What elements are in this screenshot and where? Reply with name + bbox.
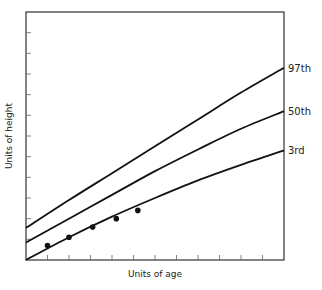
y-axis-label: Units of height xyxy=(4,102,14,169)
plot-frame xyxy=(26,12,284,260)
curve-97th xyxy=(26,68,284,228)
label-3rd: 3rd xyxy=(288,145,305,156)
data-point xyxy=(135,208,141,214)
y-axis-ticks xyxy=(26,33,31,240)
data-point xyxy=(114,216,120,222)
data-point xyxy=(66,234,72,240)
curve-50th xyxy=(26,111,284,242)
percentile-labels: 97th50th3rd xyxy=(288,63,311,157)
data-point xyxy=(90,224,96,230)
percentile-curves xyxy=(26,68,284,260)
x-axis-ticks xyxy=(48,255,263,260)
label-97th: 97th xyxy=(288,63,311,74)
data-point xyxy=(45,243,51,249)
curve-3rd xyxy=(26,150,284,260)
growth-chart: 97th50th3rd Units of age Units of height xyxy=(0,0,322,290)
label-50th: 50th xyxy=(288,106,311,117)
x-axis-label: Units of age xyxy=(128,269,183,279)
